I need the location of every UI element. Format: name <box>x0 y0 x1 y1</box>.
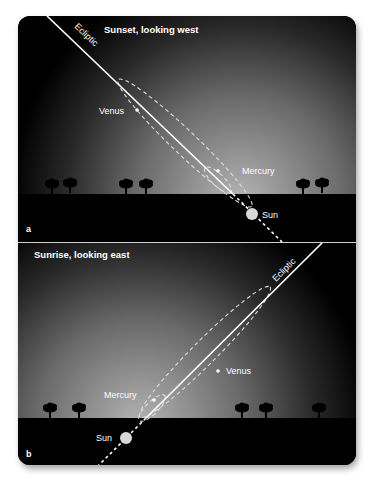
ground-a <box>18 194 356 242</box>
mercury-label-b: Mercury <box>104 390 137 400</box>
sun-label-b: Sun <box>96 433 112 443</box>
sun-label-a: Sun <box>262 210 278 220</box>
venus-dot-b <box>216 369 220 373</box>
panel-b-letter: b <box>26 449 32 459</box>
mercury-dot-a <box>216 169 220 173</box>
panel-b <box>18 243 356 466</box>
panel-a-title: Sunset, looking west <box>104 24 199 35</box>
venus-dot-a <box>135 108 139 112</box>
panel-b-title: Sunrise, looking east <box>34 249 130 260</box>
mercury-label-a: Mercury <box>242 166 275 176</box>
panel-a <box>18 16 356 242</box>
sun-a <box>246 208 258 220</box>
ground-b <box>18 418 356 465</box>
sun-b <box>120 432 132 444</box>
diagram-canvas: Sunset, looking west Ecliptic Venus Merc… <box>0 0 372 485</box>
mercury-dot-b <box>152 398 156 402</box>
venus-label-b: Venus <box>226 366 252 376</box>
venus-label-a: Venus <box>99 106 125 116</box>
